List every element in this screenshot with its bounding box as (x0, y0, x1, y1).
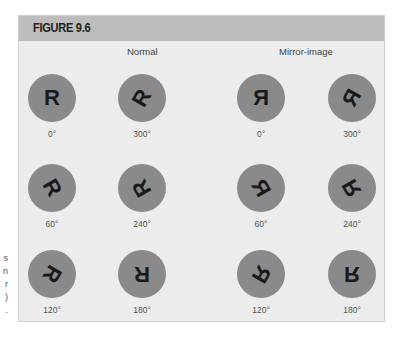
angle-label: 120° (22, 305, 82, 315)
stimulus-cell: R240° (112, 164, 172, 244)
stimulus-circle: R (237, 164, 285, 212)
stimulus-circle: R (237, 74, 285, 122)
figure-panel: FIGURE 9.6 Normal Mirror-image R0°R300°R… (18, 15, 385, 322)
angle-label: 60° (231, 219, 291, 229)
angle-label: 300° (112, 129, 172, 139)
mirrored-letter-r: R (344, 263, 360, 285)
angle-label: 300° (322, 129, 382, 139)
letter-r: R (38, 176, 65, 201)
stimulus-circle: R (118, 250, 166, 298)
stimulus-cell: R300° (322, 74, 382, 154)
caption-fragment: r (0, 278, 8, 291)
stimulus-circle: R (118, 164, 166, 212)
angle-label: 180° (112, 305, 172, 315)
angle-label: 60° (22, 219, 82, 229)
stimulus-circle: R (237, 250, 285, 298)
group-label-mirror-image: Mirror-image (279, 46, 333, 57)
caption-fragment: . (0, 304, 8, 317)
group-label-normal: Normal (127, 46, 158, 57)
mirrored-letter-r: R (253, 87, 269, 109)
stimulus-cell: R60° (22, 164, 82, 244)
mirrored-letter-r: R (338, 176, 365, 201)
stimulus-cell: R240° (322, 164, 382, 244)
mirrored-letter-r: R (338, 86, 365, 111)
stimulus-cell: R180° (112, 250, 172, 330)
angle-label: 240° (322, 219, 382, 229)
stimulus-cell: R120° (22, 250, 82, 330)
stimulus-circle: R (28, 74, 76, 122)
caption-fragment: s (0, 252, 8, 265)
angle-label: 0° (231, 129, 291, 139)
side-caption-fragment: s n r ) . (0, 252, 8, 317)
angle-label: 120° (231, 305, 291, 315)
stimulus-circle: R (328, 74, 376, 122)
figure-title: FIGURE 9.6 (33, 21, 90, 35)
stimulus-circle: R (28, 250, 76, 298)
stimulus-cell: R60° (231, 164, 291, 244)
stimulus-cell: R0° (22, 74, 82, 154)
stimulus-cell: R180° (322, 250, 382, 330)
stimulus-cell: R0° (231, 74, 291, 154)
angle-label: 240° (112, 219, 172, 229)
stimulus-cell: R300° (112, 74, 172, 154)
stimulus-circle: R (118, 74, 166, 122)
stimulus-cell: R120° (231, 250, 291, 330)
mirrored-letter-r: R (247, 262, 274, 287)
letter-r: R (128, 176, 155, 201)
letter-r: R (134, 263, 150, 285)
figure-header: FIGURE 9.6 (19, 16, 384, 41)
stimulus-circle: R (28, 164, 76, 212)
letter-r: R (44, 87, 60, 109)
letter-r: R (38, 262, 65, 287)
angle-label: 180° (322, 305, 382, 315)
mirrored-letter-r: R (247, 176, 274, 201)
stimulus-circle: R (328, 250, 376, 298)
angle-label: 0° (22, 129, 82, 139)
caption-fragment: ) (0, 291, 8, 304)
stimulus-circle: R (328, 164, 376, 212)
letter-r: R (128, 86, 155, 111)
caption-fragment: n (0, 265, 8, 278)
